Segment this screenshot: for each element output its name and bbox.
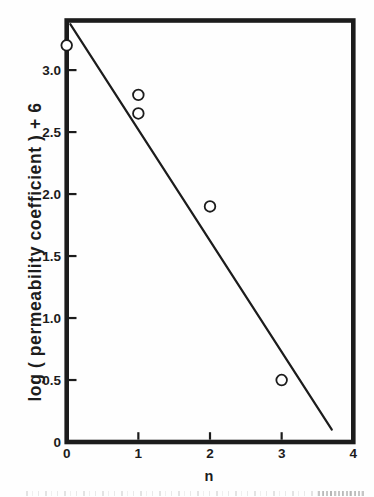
data-point [205,201,216,212]
y-tick-label: 0.5 [42,373,61,388]
y-tick-label: 1.5 [42,249,61,264]
x-tick-label: 0 [63,446,71,461]
y-axis-label: log ( permeability coefficient ) + 6 [25,102,45,401]
x-tick-label: 1 [135,446,143,461]
data-points [61,40,287,385]
cropped-caption-fragment-dark [318,491,364,496]
fit-line [70,24,332,429]
y-tick-label: 1.0 [42,311,61,326]
x-tick-label: 2 [206,446,214,461]
x-axis-ticks: 01234 [63,432,358,460]
scatter-plot: 00.51.01.52.02.53.0 01234 n log ( permea… [0,0,374,497]
figure-canvas: 00.51.01.52.02.53.0 01234 n log ( permea… [0,0,374,497]
cropped-caption-fragment [26,491,366,496]
y-tick-label: 2.0 [42,187,61,202]
x-tick-label: 4 [350,446,358,461]
x-axis-label: n [205,468,214,484]
y-axis-ticks: 00.51.01.52.02.53.0 [42,63,76,450]
data-point [61,40,72,51]
y-tick-label: 3.0 [42,63,61,78]
data-point [276,375,287,386]
y-tick-label: 2.5 [42,125,61,140]
data-point [133,90,144,101]
x-tick-label: 3 [278,446,286,461]
data-point [133,108,144,119]
y-tick-label: 0 [53,435,61,450]
